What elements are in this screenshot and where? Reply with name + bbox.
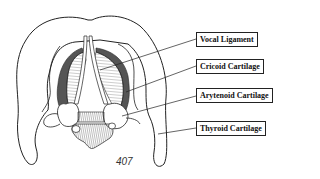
leader-line-vocal-ligament	[100, 39, 196, 70]
label-cricoid-cartilage: Cricoid Cartilage	[196, 59, 264, 74]
label-thyroid-cartilage: Thyroid Cartilage	[196, 121, 266, 136]
figure-number: 407	[116, 156, 133, 167]
right-cricoid-nub	[109, 123, 116, 129]
leader-line-cricoid-cartilage	[126, 66, 196, 92]
left-cricoid-nub	[72, 126, 80, 133]
leader-line-arytenoid-cartilage	[122, 96, 196, 116]
cricoid-band	[78, 112, 104, 122]
label-arytenoid-cartilage: Arytenoid Cartilage	[196, 88, 273, 103]
thyroid-inner-line-left	[42, 46, 60, 112]
label-vocal-ligament: Vocal Ligament	[196, 32, 258, 47]
left-arytenoid-cartilage	[57, 103, 79, 127]
leader-line-thyroid-cartilage	[158, 128, 196, 134]
